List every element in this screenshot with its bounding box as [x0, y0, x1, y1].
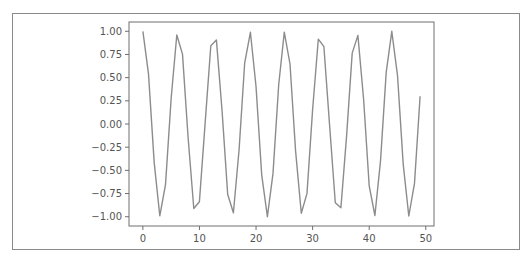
x-tick-label: 10: [193, 233, 206, 244]
x-tick-label: 50: [419, 233, 432, 244]
y-tick-label: −0.75: [91, 188, 122, 199]
y-tick-label: 1.00: [100, 26, 122, 37]
y-axis: 1.000.750.500.250.00−0.25−0.50−0.75−1.00: [91, 26, 129, 222]
y-tick-label: −0.50: [91, 165, 122, 176]
y-tick-label: 0.50: [100, 72, 122, 83]
y-tick-label: 0.75: [100, 49, 122, 60]
y-tick-label: −0.25: [91, 142, 122, 153]
x-tick-label: 20: [250, 233, 263, 244]
x-axis: 01020304050: [140, 226, 432, 244]
y-tick-label: 0.00: [100, 119, 122, 130]
y-tick-label: −1.00: [91, 211, 122, 222]
x-tick-label: 0: [140, 233, 146, 244]
y-tick-label: 0.25: [100, 95, 122, 106]
data-line-cos: [143, 31, 420, 216]
x-tick-label: 30: [306, 233, 319, 244]
x-tick-label: 40: [363, 233, 376, 244]
line-chart: 1.000.750.500.250.00−0.25−0.50−0.75−1.00…: [0, 0, 532, 260]
